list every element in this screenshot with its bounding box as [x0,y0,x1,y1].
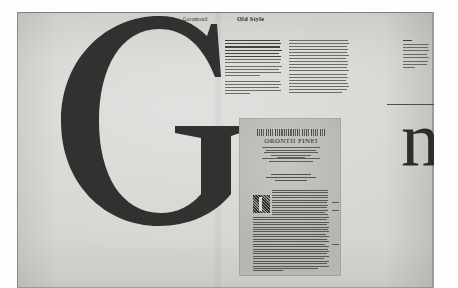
text-lines [289,40,349,93]
text-column-one [225,40,282,96]
book-spread-photo: Garamond Old Style n [17,12,434,288]
scanned-page-canvas: Garamond Old Style n [0,0,458,288]
woodcut-headpiece-ornament [257,129,325,136]
text-column-three-caption [403,40,429,71]
display-glyph-capital-g [55,14,245,228]
plate-imprint-block [261,174,321,183]
display-glyph-lowercase-n: n [401,106,434,173]
page-edge-left [17,12,18,288]
marginal-note [332,202,339,203]
text-lines [403,40,429,68]
decorated-initial-i [253,195,270,213]
plate-title-text: ORONTII FINEI [257,138,325,146]
plate-subtitle-block [259,158,323,163]
marginal-note [332,244,339,245]
marginal-note [332,210,339,211]
page-edge-top [17,12,434,13]
text-lines [225,40,282,94]
antique-title-page-plate: ORONTII FINEI [239,118,341,276]
text-column-two [289,40,349,95]
plate-title-block: ORONTII FINEI [257,138,325,158]
plate-body-text-block [253,190,329,273]
